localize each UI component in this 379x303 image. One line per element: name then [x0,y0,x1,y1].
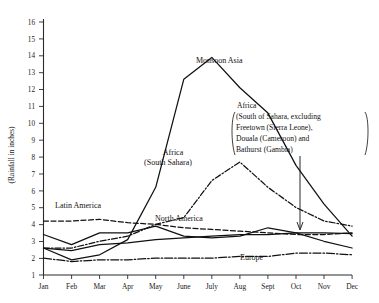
x-tick-sept: Sept [261,282,275,291]
x-tick-mar: Mar [93,282,106,291]
x-tick-oct: Oct [291,282,303,291]
x-tick-june: June [177,282,191,291]
y-axis-ticks [39,22,44,275]
x-tick-july: July [206,282,219,291]
x-tick-may: May [149,282,163,291]
y-tick-4: 4 [31,221,35,229]
series-label-monsoon-asia: Monsoon Asia [196,56,243,65]
y-tick-3: 3 [31,238,35,246]
note-line-5: Bathurst (Gambia) [236,145,293,154]
x-tick-jan: Jan [39,282,49,291]
y-tick-5: 5 [31,204,35,212]
y-tick-12: 12 [28,86,36,94]
x-axis-ticks [44,275,353,279]
y-tick-8: 8 [31,154,35,162]
note-brace-left [232,112,235,155]
y-tick-2: 2 [31,255,35,263]
series-line-europe [44,253,353,261]
y-tick-16: 16 [28,19,36,27]
note-line-3: Freetown (Sierra Leone), [236,123,313,132]
note-line-2: (South of Sahara, excluding [236,112,321,121]
y-axis-tick-labels: 16 15 14 13 12 11 10 9 8 7 6 5 4 3 2 1 [28,19,36,280]
x-tick-feb: Feb [66,282,77,291]
africa-note-annotation: Africa (South of Sahara, excluding Freet… [232,101,368,230]
y-tick-9: 9 [31,137,35,145]
y-tick-14: 14 [28,52,36,60]
series-line-monsoon-asia [44,57,353,259]
y-tick-1: 1 [31,272,35,280]
y-tick-10: 10 [28,120,36,128]
series-label-africa-line2: (South Sahara) [144,158,192,167]
note-brace-right [365,112,368,155]
y-axis-title: (Rainfall in inches) [7,126,16,184]
series-group [44,57,353,261]
series-label-europe: Europe [240,253,264,262]
x-tick-dec: Dec [346,282,359,291]
y-tick-15: 15 [28,36,36,44]
series-label-latin-america: Latin America [55,201,101,210]
y-tick-13: 13 [28,69,36,77]
series-label-north-america: North America [155,214,203,223]
x-tick-apr: Apr [122,282,134,291]
y-tick-11: 11 [28,103,35,111]
note-line-1: Africa [237,101,257,110]
x-axis-tick-labels: Jan Feb Mar Apr May June July Aug Sept O… [39,282,359,291]
rainfall-line-chart: (Rainfall in inches) 16 15 14 [0,0,379,303]
series-label-africa-line1: Africa [163,148,184,157]
note-line-4: Douala (Cameroon) and [236,134,310,143]
y-tick-6: 6 [31,188,35,196]
x-tick-aug: Aug [234,282,247,291]
y-tick-7: 7 [31,171,35,179]
chart-svg: (Rainfall in inches) 16 15 14 [0,0,379,303]
x-tick-nov: Nov [318,282,331,291]
